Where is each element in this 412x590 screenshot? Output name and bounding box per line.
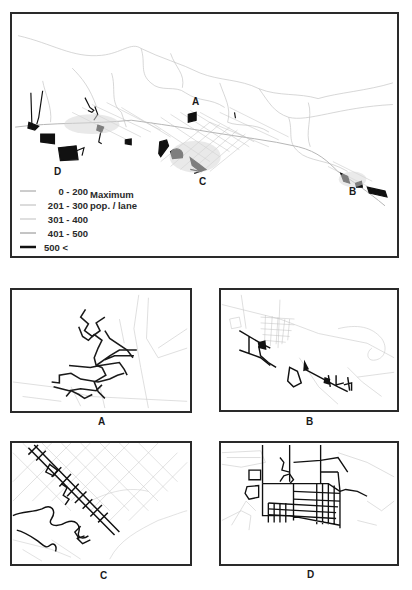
panel-caption-d: D — [307, 569, 314, 580]
legend-line-201-300-icon — [20, 203, 36, 207]
map-legend: 0 - 200 201 - 300 301 - 400 401 - 500 50… — [20, 184, 88, 254]
legend-class-201-300: 201 - 300 — [20, 198, 88, 212]
legend-class-500-plus: 500 < — [20, 240, 88, 254]
region-label-c: C — [199, 176, 206, 187]
legend-range-label: 500 < — [44, 242, 88, 253]
legend-title-line1: Maximum — [90, 189, 137, 200]
detail-panel-a — [10, 288, 192, 413]
detail-panel-d — [219, 441, 399, 566]
legend-line-0-200-icon — [20, 189, 36, 193]
legend-class-0-200: 0 - 200 — [20, 184, 88, 198]
panel-caption-b: B — [306, 416, 313, 427]
region-label-a: A — [192, 96, 199, 107]
road-network-detail-d — [221, 443, 397, 564]
legend-range-label: 401 - 500 — [44, 228, 88, 239]
detail-panel-b — [219, 288, 399, 412]
panel-caption-c: C — [100, 570, 107, 581]
legend-line-401-500-icon — [20, 231, 36, 235]
legend-range-label: 201 - 300 — [44, 200, 88, 211]
legend-class-401-500: 401 - 500 — [20, 226, 88, 240]
legend-title-line2: pop. / lane — [90, 200, 137, 211]
legend-range-label: 0 - 200 — [44, 186, 88, 197]
region-label-d: D — [54, 166, 61, 177]
legend-line-500-plus-icon — [20, 245, 36, 249]
panel-caption-a: A — [98, 416, 105, 427]
legend-range-label: 301 - 400 — [44, 214, 88, 225]
legend-class-301-400: 301 - 400 — [20, 212, 88, 226]
legend-line-301-400-icon — [20, 217, 36, 221]
road-network-detail-c — [12, 443, 190, 564]
road-network-detail-a — [12, 290, 190, 411]
detail-panel-c — [10, 441, 192, 566]
road-network-detail-b — [221, 290, 397, 410]
region-label-b: B — [349, 186, 356, 197]
legend-title: Maximum pop. / lane — [90, 189, 137, 211]
